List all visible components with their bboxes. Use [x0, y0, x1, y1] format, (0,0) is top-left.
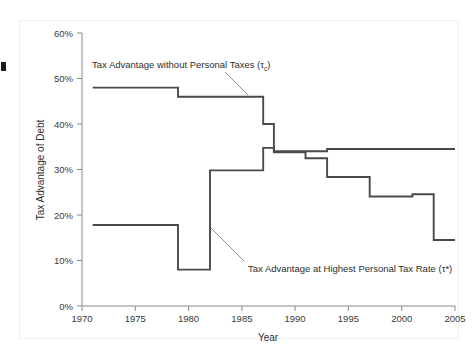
x-tick-label-1985: 1985 — [231, 313, 252, 324]
y-tick-label-50: 50% — [54, 73, 74, 84]
chart-svg: 0% 10% 20% 30% 40% 50% 60% 1970 1975 198… — [0, 0, 476, 359]
x-tick-label-1975: 1975 — [125, 313, 146, 324]
x-axis-title: Year — [258, 332, 279, 343]
x-tick-label-1995: 1995 — [338, 313, 359, 324]
x-tick-labels: 1970 1975 1980 1985 1990 1995 2000 2005 — [71, 313, 465, 324]
y-tick-label-60: 60% — [54, 28, 74, 39]
y-tick-label-40: 40% — [54, 119, 74, 130]
x-tick-label-1970: 1970 — [71, 313, 92, 324]
series-line-tau-c — [93, 88, 455, 152]
x-tick-label-2005: 2005 — [444, 313, 465, 324]
y-tick-label-30: 30% — [54, 164, 74, 175]
y-tick-label-20: 20% — [54, 210, 74, 221]
annotation-upper-suffix: ) — [267, 59, 270, 70]
annotation-upper: Tax Advantage without Personal Taxes (τc… — [92, 59, 270, 72]
annotation-upper-text: Tax Advantage without Personal Taxes (τ — [92, 59, 264, 70]
x-tick-label-2000: 2000 — [391, 313, 412, 324]
series-line-tau-star — [93, 148, 455, 270]
x-tick-label-1990: 1990 — [285, 313, 306, 324]
leader-line-lower — [211, 228, 244, 261]
y-tick-labels: 0% 10% 20% 30% 40% 50% 60% — [54, 28, 74, 312]
figure-container: 0% 10% 20% 30% 40% 50% 60% 1970 1975 198… — [0, 0, 476, 359]
x-tick-label-1980: 1980 — [178, 313, 199, 324]
y-tick-label-0: 0% — [59, 301, 73, 312]
y-tick-label-10: 10% — [54, 255, 74, 266]
leader-line-upper — [225, 72, 248, 95]
annotation-lower: Tax Advantage at Highest Personal Tax Ra… — [248, 263, 452, 274]
y-axis-title: Tax Advantage of Debt — [35, 119, 46, 220]
